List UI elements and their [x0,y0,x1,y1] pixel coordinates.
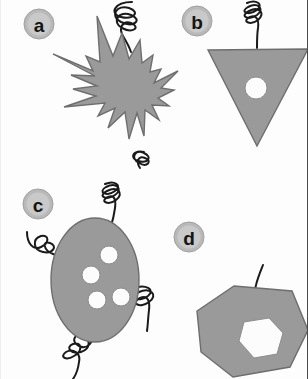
panel-c-organelle-1 [100,246,118,264]
panel-badge-d-label: d [183,228,195,249]
panel-badge-a-group: a [24,9,54,39]
panel-b-organelle-1 [245,77,267,99]
panel-b-flagellum-top [244,2,261,48]
panel-badge-c-label: c [33,195,44,216]
panel-a-group [53,2,178,168]
figure-panel-container: a b c d [0,0,308,379]
panel-c-organelle-4 [112,288,130,306]
panel-badge-d-group: d [174,222,204,252]
panel-d-group [197,265,308,377]
panel-c-organelle-3 [88,291,106,309]
panel-b-group [208,2,308,146]
panel-c-organelle-2 [82,266,100,284]
panel-badge-a-label: a [34,15,45,36]
panel-a-cell-body [53,16,178,139]
panel-a-flagellum-bottom [133,152,149,168]
panel-badge-b-group: b [182,6,212,36]
panel-badge-b-label: b [191,12,203,33]
panel-badge-c-group: c [23,189,53,219]
figure-canvas: a b c d [1,0,308,379]
